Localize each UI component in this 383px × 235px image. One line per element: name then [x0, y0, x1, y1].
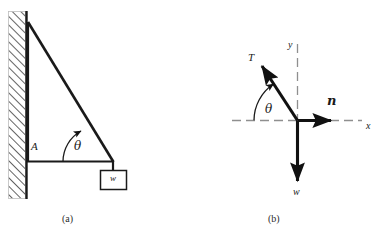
caption-panel-a: (a)	[62, 213, 73, 224]
label-axis-x: x	[366, 120, 370, 131]
label-normal-n: n	[327, 93, 336, 108]
diagonal-strut	[28, 22, 114, 162]
hatched-wall	[9, 11, 27, 199]
label-angle-theta-a: θ	[74, 139, 81, 153]
label-weight-box: w	[110, 173, 116, 183]
label-point-a: A	[31, 140, 38, 152]
label-tension-t: T	[248, 51, 254, 63]
label-axis-y: y	[288, 39, 292, 50]
panel-b	[232, 44, 362, 181]
physics-figure	[0, 0, 383, 235]
label-weight-w: w	[293, 186, 300, 197]
label-angle-theta-b: θ	[265, 102, 272, 116]
caption-panel-b: (b)	[268, 213, 280, 224]
panel-a	[9, 11, 127, 199]
